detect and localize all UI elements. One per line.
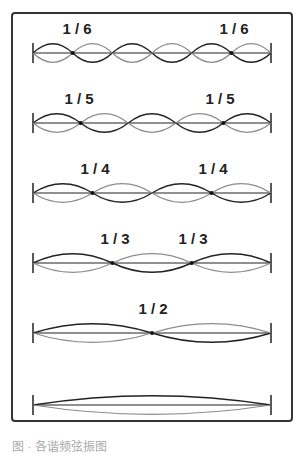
label-mode6-left: 1 / 6 — [62, 20, 91, 37]
string-mode-4 — [33, 183, 271, 203]
label-mode4-right: 1 / 4 — [198, 160, 227, 177]
label-mode3-right: 1 / 3 — [178, 230, 207, 247]
label-mode5-right: 1 / 5 — [205, 90, 234, 107]
label-mode4-left: 1 / 4 — [80, 160, 109, 177]
figure-caption: 图 · 各谐频弦振图 — [12, 437, 107, 454]
string-mode-6 — [33, 43, 271, 63]
label-mode5-left: 1 / 5 — [64, 90, 93, 107]
string-mode-1 — [33, 395, 271, 415]
string-mode-5 — [33, 113, 271, 133]
string-mode-2 — [33, 323, 271, 343]
string-mode-3 — [33, 253, 271, 273]
label-mode3-left: 1 / 3 — [100, 230, 129, 247]
label-mode2: 1 / 2 — [138, 300, 167, 317]
label-mode6-right: 1 / 6 — [219, 20, 248, 37]
